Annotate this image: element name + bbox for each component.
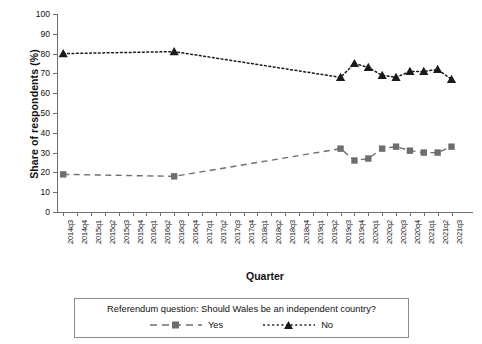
- y-tick-label: 60: [41, 88, 50, 98]
- x-tick-label: 2018q3: [288, 220, 297, 244]
- x-tick-label: 2016q1: [149, 220, 158, 244]
- data-point-no[interactable]: [350, 59, 359, 67]
- data-point-yes[interactable]: [407, 147, 413, 153]
- x-tick-label: 2020q3: [399, 220, 408, 244]
- x-tick-label: 2017q3: [233, 220, 242, 244]
- y-tick-label: 50: [41, 108, 50, 118]
- x-tick-label: 2021q3: [455, 220, 464, 244]
- x-tick: [257, 212, 258, 216]
- data-point-no[interactable]: [378, 71, 387, 79]
- data-point-no[interactable]: [59, 49, 68, 57]
- x-tick-label: 2020q4: [413, 220, 422, 244]
- x-tick: [216, 212, 217, 216]
- x-axis-title: Quarter: [57, 270, 473, 282]
- series-line-yes: [63, 147, 451, 177]
- x-tick-label: 2021q2: [441, 220, 450, 244]
- series-line-no: [63, 52, 451, 80]
- x-tick-label: 2017q1: [205, 220, 214, 244]
- data-point-yes[interactable]: [379, 145, 385, 151]
- x-tick: [327, 212, 328, 216]
- legend-item-yes[interactable]: Yes: [150, 319, 223, 331]
- y-tick-label: 20: [41, 167, 50, 177]
- x-tick: [63, 212, 64, 216]
- x-tick: [105, 212, 106, 216]
- data-point-yes[interactable]: [351, 157, 357, 163]
- y-tick-label: 100: [36, 9, 50, 19]
- chart-container: Share of respondents (%) 010203040506070…: [0, 0, 482, 344]
- x-tick-label: 2018q4: [302, 220, 311, 244]
- x-tick-label: 2017q4: [247, 220, 256, 244]
- x-tick-label: 2020q2: [385, 220, 394, 244]
- data-point-yes[interactable]: [421, 149, 427, 155]
- x-tick: [160, 212, 161, 216]
- x-tick-label: 2019q1: [316, 220, 325, 244]
- x-tick-label: 2021q1: [427, 220, 436, 244]
- x-tick: [230, 212, 231, 216]
- x-tick-label: 2020q1: [371, 220, 380, 244]
- legend-label-no: No: [321, 320, 333, 330]
- y-tick-label: 80: [41, 49, 50, 59]
- x-tick: [119, 212, 120, 216]
- x-tick-label: 2019q4: [357, 220, 366, 244]
- x-tick-label: 2018q1: [260, 220, 269, 244]
- data-point-no[interactable]: [447, 75, 456, 83]
- x-tick-label: 2016q4: [191, 220, 200, 244]
- x-tick: [382, 212, 383, 216]
- x-tick: [271, 212, 272, 216]
- legend-items: Yes No: [75, 319, 408, 331]
- y-tick-label: 30: [41, 148, 50, 158]
- y-axis-title: Share of respondents (%): [28, 14, 40, 214]
- x-tick: [410, 212, 411, 216]
- data-point-yes[interactable]: [434, 149, 440, 155]
- data-point-yes[interactable]: [171, 173, 177, 179]
- legend-label-yes: Yes: [208, 320, 223, 330]
- x-tick: [285, 212, 286, 216]
- x-tick: [202, 212, 203, 216]
- y-tick-label: 40: [41, 128, 50, 138]
- x-tick: [299, 212, 300, 216]
- data-point-yes[interactable]: [393, 143, 399, 149]
- x-tick: [244, 212, 245, 216]
- legend-swatch-no-icon: [263, 319, 315, 331]
- data-point-yes[interactable]: [448, 143, 454, 149]
- y-tick-label: 70: [41, 68, 50, 78]
- y-tick-label: 0: [45, 207, 50, 217]
- data-point-no[interactable]: [433, 65, 442, 73]
- x-tick: [368, 212, 369, 216]
- x-tick: [91, 212, 92, 216]
- x-tick-label: 2019q3: [344, 220, 353, 244]
- data-point-yes[interactable]: [365, 155, 371, 161]
- chart-legend: Referendum question: Should Wales be an …: [74, 298, 409, 338]
- x-tick-label: 2015q3: [122, 220, 131, 244]
- y-tick-label: 10: [41, 187, 50, 197]
- series-layer: [57, 14, 473, 212]
- x-tick-label: 2014q4: [80, 220, 89, 244]
- x-tick: [354, 212, 355, 216]
- x-tick: [174, 212, 175, 216]
- x-tick-label: 2019q2: [330, 220, 339, 244]
- x-tick: [452, 212, 453, 216]
- legend-title: Referendum question: Should Wales be an …: [75, 304, 408, 314]
- x-tick: [341, 212, 342, 216]
- data-point-yes[interactable]: [337, 145, 343, 151]
- x-tick-label: 2015q2: [108, 220, 117, 244]
- x-tick: [438, 212, 439, 216]
- legend-item-no[interactable]: No: [263, 319, 333, 331]
- x-tick: [313, 212, 314, 216]
- x-tick: [188, 212, 189, 216]
- x-tick: [424, 212, 425, 216]
- x-tick-label: 2015q4: [136, 220, 145, 244]
- x-tick: [133, 212, 134, 216]
- x-tick-label: 2014q3: [66, 220, 75, 244]
- x-tick-label: 2016q3: [177, 220, 186, 244]
- y-tick-label: 90: [41, 29, 50, 39]
- plot-area: 0102030405060708090100 2014q32014q42015q…: [57, 14, 473, 212]
- x-tick-label: 2016q2: [163, 220, 172, 244]
- x-tick: [77, 212, 78, 216]
- x-tick-label: 2018q2: [274, 220, 283, 244]
- x-tick: [146, 212, 147, 216]
- legend-swatch-yes-icon: [150, 319, 202, 331]
- data-point-yes[interactable]: [60, 171, 66, 177]
- x-tick: [396, 212, 397, 216]
- x-tick-label: 2015q1: [94, 220, 103, 244]
